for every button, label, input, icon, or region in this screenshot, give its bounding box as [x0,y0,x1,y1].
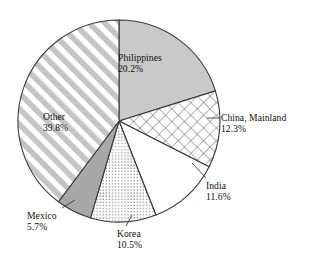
pie-label-korea: Korea 10.5% [117,228,142,251]
pie-label-mexico-name: Mexico [27,210,57,221]
pie-chart: Philippines 20.2% China, Mainland 12.3% … [0,0,317,264]
pie-label-india-value: 11.6% [206,191,231,202]
pie-label-mexico-value: 5.7% [27,221,57,232]
pie-label-china-mainland-value: 12.3% [221,123,286,134]
pie-label-china-mainland-name: China, Mainland [221,112,286,123]
pie-label-china-mainland: China, Mainland 12.3% [221,112,286,135]
pie-label-india: India 11.6% [206,180,231,203]
pie-label-india-name: India [206,180,231,191]
pie-label-philippines-value: 20.2% [118,63,162,74]
pie-label-korea-value: 10.5% [117,239,142,250]
pie-label-korea-name: Korea [117,228,142,239]
pie-label-philippines-name: Philippines [118,52,162,63]
pie-label-other: Other 39.8% [43,111,68,134]
pie-label-philippines: Philippines 20.2% [118,52,162,75]
pie-label-mexico: Mexico 5.7% [27,210,57,233]
pie-label-other-name: Other [43,111,68,122]
pie-label-other-value: 39.8% [43,122,68,133]
